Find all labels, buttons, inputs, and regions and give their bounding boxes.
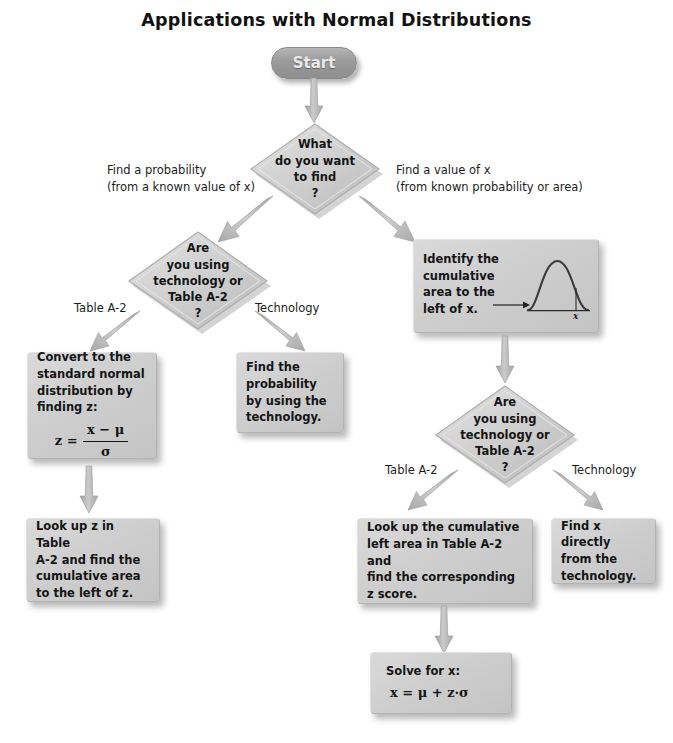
box-solve-for-x-text: Solve for x: x = μ + z·σ	[380, 663, 502, 704]
edge-label-find-probability: Find a probability (from a known value o…	[107, 162, 255, 195]
formula-lhs: z =	[55, 433, 78, 448]
arrow-convert-to-lookupz	[78, 466, 100, 514]
start-node[interactable]: Start	[271, 47, 357, 79]
arrow-what-to-identify-right	[355, 196, 421, 246]
formula-denominator: σ	[83, 442, 128, 462]
edge-label-find-value-of-x: Find a value of x (from known probabilit…	[396, 162, 583, 195]
box-lookup-cumulative-left-area-text: Look up the cumulative left area in Tabl…	[367, 519, 523, 602]
box-solve-for-x[interactable]: Solve for x: x = μ + z·σ	[370, 652, 512, 714]
box-line: Look up the cumulative	[367, 519, 523, 536]
box-line: Find x directly	[561, 518, 646, 551]
box-line: technology.	[561, 568, 646, 585]
arrow-techtable-right-to-lookuparea	[404, 470, 460, 512]
box-line: by using the	[246, 393, 334, 410]
flowchart-canvas: Applications with Normal Distributions S…	[0, 0, 673, 743]
box-identify-cumulative-area[interactable]: Identify the cumulative area to the left…	[413, 239, 599, 333]
box-line: z score.	[367, 586, 523, 603]
box-line: finding z:	[37, 399, 147, 416]
arrow-techtable-to-convert	[86, 311, 142, 353]
box-line: Solve for x:	[386, 663, 502, 680]
formula-solve-x: x = μ + z·σ	[386, 684, 502, 703]
box-line: cumulative area	[36, 568, 150, 585]
box-lookup-cumulative-left-area[interactable]: Look up the cumulative left area in Tabl…	[357, 518, 533, 604]
box-line: technology.	[246, 409, 334, 426]
box-line: area to the	[423, 284, 521, 301]
box-line: to the left of z.	[36, 585, 150, 602]
box-find-probability-technology[interactable]: Find the probability by using the techno…	[236, 352, 344, 433]
box-find-probability-technology-text: Find the probability by using the techno…	[246, 359, 334, 426]
box-lookup-z-table-text: Look up z in Table A-2 and find the cumu…	[36, 518, 150, 601]
box-line: probability	[246, 376, 334, 393]
curve-x-tick-label: x	[573, 310, 578, 323]
arrow-techtable-to-findprob	[253, 311, 309, 353]
edge-label-line: Find a probability	[107, 162, 255, 179]
box-line: Identify the	[423, 251, 521, 268]
box-line: find the corresponding	[367, 569, 523, 586]
edge-label-line: (from known probability or area)	[396, 179, 583, 196]
box-convert-to-z-text: Convert to the standard normal distribut…	[37, 349, 147, 461]
box-convert-to-z[interactable]: Convert to the standard normal distribut…	[27, 352, 157, 459]
bell-curve-icon: x	[526, 248, 592, 324]
arrow-lookuparea-to-solvex	[433, 606, 455, 654]
formula-fraction: x − μ σ	[83, 421, 128, 462]
box-line: left area in Table A-2 and	[367, 536, 523, 569]
start-label: Start	[293, 54, 336, 72]
edge-label-line: (from a known value of x)	[107, 179, 255, 196]
box-line: Find the	[246, 359, 334, 376]
edge-label-line: Find a value of x	[396, 162, 583, 179]
formula-z-score: z = x − μ σ	[37, 421, 147, 462]
box-line: cumulative	[423, 268, 521, 285]
box-find-x-technology[interactable]: Find x directly from the technology.	[551, 518, 656, 584]
arrow-identify-to-techtable-right	[494, 336, 516, 384]
formula-numerator: x − μ	[83, 421, 128, 442]
box-line: Look up z in Table	[36, 518, 150, 551]
box-line: A-2 and find the	[36, 552, 150, 569]
arrow-techtable-right-to-findx	[551, 470, 607, 512]
box-line: standard normal	[37, 366, 147, 383]
decision-tech-or-table-left[interactable]: Are you using technology or Table A-2 ?	[125, 228, 271, 334]
arrow-start-to-what	[303, 78, 325, 124]
box-lookup-z-table[interactable]: Look up z in Table A-2 and find the cumu…	[26, 518, 160, 602]
box-find-x-technology-text: Find x directly from the technology.	[561, 518, 646, 585]
box-line: Convert to the	[37, 349, 147, 366]
box-line: distribution by	[37, 383, 147, 400]
box-line: from the	[561, 551, 646, 568]
page-title: Applications with Normal Distributions	[0, 10, 673, 30]
